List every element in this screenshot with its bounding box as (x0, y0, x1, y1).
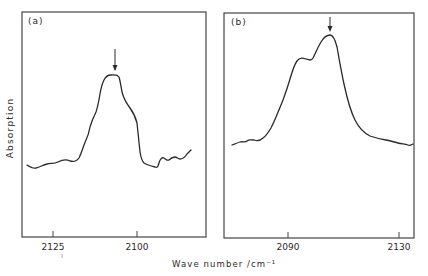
tick-label-2090: 2090 (277, 242, 300, 252)
arrow-head-b-icon (328, 26, 333, 32)
panel-b-label: (b) (231, 17, 247, 27)
panel-a-frame (22, 12, 206, 237)
x-axis-label: Wave number /cm⁻¹ (172, 259, 276, 269)
panel-b-spectrum-line (232, 35, 413, 145)
tick-label-2100: 2100 (126, 242, 149, 252)
panel-a: (a) 2125 2100 (22, 12, 206, 258)
tick-label-2125: 2125 (42, 242, 65, 252)
spectra-figure: Absorption (a) 2125 2100 (b) (0, 0, 428, 276)
panel-a-label: (a) (28, 16, 44, 26)
panel-b: (b) 2090 2130 (224, 13, 414, 252)
tick-label-2130: 2130 (388, 242, 411, 252)
panel-a-spectrum-line (27, 75, 191, 168)
y-axis-label: Absorption (5, 98, 15, 159)
arrow-head-a-icon (113, 65, 118, 71)
